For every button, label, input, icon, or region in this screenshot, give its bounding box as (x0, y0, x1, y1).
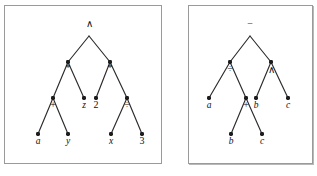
tree-node: ∧ (268, 60, 275, 75)
tree-node-label: + (243, 99, 249, 110)
tree-edge (230, 36, 250, 62)
tree-node: + (243, 96, 249, 110)
tree-node: y (65, 132, 71, 146)
tree-node-label: z (81, 100, 86, 110)
tree-node-label: ∧ (86, 18, 93, 29)
tree-node: c (286, 96, 291, 110)
tree-node-label: * (108, 62, 113, 73)
tree-node-label: 3 (140, 135, 145, 146)
tree-edge-layer (38, 36, 142, 134)
tree-node-label: c (260, 136, 265, 146)
tree-node-label: a (207, 100, 212, 110)
right-expression-tree-svg: −÷∧a+bcbc (189, 6, 312, 163)
right-tree-panel: −÷∧a+bcbc (188, 5, 313, 164)
tree-node: * (66, 60, 71, 73)
tree-node-label: − (247, 18, 253, 29)
tree-node: * (108, 60, 113, 73)
tree-node-label: a (36, 136, 41, 146)
tree-node-label: + (50, 99, 56, 110)
tree-edge (89, 36, 110, 62)
tree-node-label: ÷ (124, 99, 130, 110)
tree-node: 3 (140, 132, 145, 146)
tree-node: z (81, 96, 86, 110)
tree-node: a (36, 132, 41, 146)
tree-edge-layer (209, 36, 288, 134)
tree-node-label: * (66, 62, 71, 73)
tree-node: ÷ (227, 60, 233, 74)
tree-edge (68, 36, 89, 62)
tree-node-label: ∧ (268, 64, 275, 75)
tree-node: a (207, 96, 212, 110)
tree-node: 2 (94, 96, 99, 110)
tree-node: − (247, 18, 253, 29)
tree-node-label: y (65, 136, 71, 146)
tree-node-label: ÷ (227, 63, 233, 74)
tree-node: b (229, 132, 234, 146)
tree-node: b (254, 96, 259, 110)
tree-node-label: x (108, 136, 114, 146)
tree-node: x (108, 132, 114, 146)
expression-tree-figure: ∧**+z2÷ayx3 −÷∧a+bcbc (0, 0, 317, 176)
tree-node-label: 2 (94, 99, 99, 110)
left-tree-panel: ∧**+z2÷ayx3 (4, 5, 162, 164)
tree-node: + (50, 96, 56, 110)
left-expression-tree-svg: ∧**+z2÷ayx3 (5, 6, 161, 163)
tree-node-label: b (254, 100, 259, 110)
tree-node: ∧ (86, 18, 93, 29)
tree-node-label: b (229, 136, 234, 146)
tree-edge (250, 36, 271, 62)
tree-node: ÷ (124, 96, 130, 110)
tree-edge (110, 62, 127, 98)
tree-node-label: c (286, 100, 291, 110)
tree-node: c (260, 132, 265, 146)
